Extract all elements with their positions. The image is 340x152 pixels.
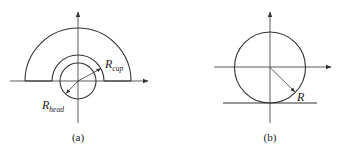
ball-radius-label: R <box>296 90 305 104</box>
figure-canvas: Rcup Rhead (a) R (b) <box>0 0 340 152</box>
caption-b: (b) <box>264 131 277 144</box>
cup-radius-label: Rcup <box>104 57 123 73</box>
cup-radius-arrow <box>78 69 101 82</box>
panel-b: R (b) <box>214 12 331 144</box>
panel-a: Rcup Rhead (a) <box>10 12 148 144</box>
caption-a: (a) <box>72 131 85 144</box>
ball-radius-arrow <box>270 68 295 93</box>
head-radius-arrow <box>66 81 78 94</box>
head-radius-label: Rhead <box>41 98 64 114</box>
